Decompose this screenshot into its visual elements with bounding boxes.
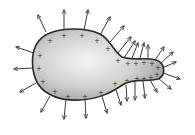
plus-charge-icon: + (36, 65, 42, 73)
charged-conductor-diagram: ++++++++++++++++++++++++ (0, 0, 195, 135)
field-line-arrow-icon (38, 15, 46, 32)
field-line-arrow-icon (20, 83, 36, 92)
plus-charge-icon: + (52, 88, 58, 96)
field-line-arrow-icon (41, 96, 50, 112)
plus-charge-icon: + (98, 89, 104, 97)
plus-charge-icon: + (37, 52, 43, 60)
field-line-arrow-icon (163, 73, 180, 79)
field-line-arrow-icon (140, 43, 144, 58)
field-line-arrow-icon (143, 81, 145, 98)
field-line-arrow-icon (102, 96, 107, 113)
field-line-arrow-icon (132, 43, 138, 58)
plus-charge-icon: + (133, 60, 139, 68)
field-line-arrow-icon (155, 47, 164, 60)
plus-charge-icon: + (115, 57, 121, 65)
plus-charge-icon: + (47, 37, 53, 45)
plus-charge-icon: + (94, 37, 100, 45)
plus-charge-icon: + (124, 77, 130, 85)
plus-charge-icon: + (79, 32, 85, 40)
field-line-arrow-icon (84, 10, 88, 30)
field-line-arrow-icon (160, 52, 173, 64)
field-line-arrow-icon (116, 90, 121, 105)
field-line-arrow-icon (110, 26, 124, 42)
diagram-canvas: Charged conductor with surface charges a… (0, 0, 195, 135)
plus-charge-icon: + (40, 78, 46, 86)
field-line-arrow-icon (158, 78, 171, 89)
plus-charge-icon: + (148, 74, 154, 82)
plus-charge-icon: + (141, 75, 147, 83)
plus-charge-icon: + (61, 32, 67, 40)
field-line-arrow-icon (16, 47, 34, 53)
field-line-arrow-icon (126, 85, 127, 101)
plus-charge-icon: + (141, 59, 147, 67)
field-line-arrow-icon (85, 99, 86, 118)
plus-charge-icon: + (125, 60, 131, 68)
field-line-arrow-icon (14, 68, 33, 69)
plus-charge-icon: + (134, 75, 140, 83)
plus-charge-icon: + (82, 93, 88, 101)
plus-charge-icon: + (154, 71, 160, 79)
field-line-arrow-icon (150, 80, 157, 92)
plus-charge-icon: + (105, 45, 111, 53)
field-line-arrow-icon (64, 99, 66, 119)
field-line-arrow-icon (100, 17, 110, 35)
plus-charge-icon: + (112, 80, 118, 88)
plus-charge-icon: + (65, 93, 71, 101)
field-line-arrow-icon (117, 37, 131, 54)
